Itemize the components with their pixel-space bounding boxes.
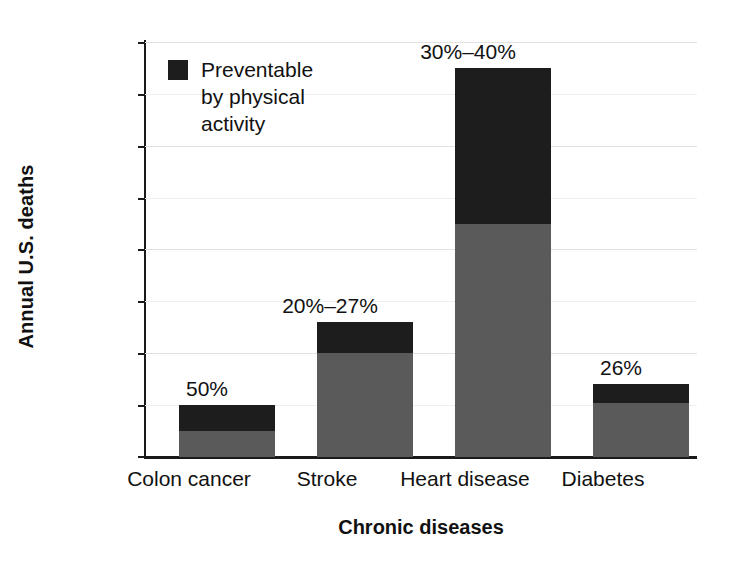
y-tick-mark-250000	[138, 198, 145, 200]
bar-segment-base-diabetes	[593, 403, 689, 457]
bar-diabetes[interactable]	[593, 384, 689, 457]
gridline-100000	[145, 353, 697, 354]
bar-segment-preventable-heart-disease	[455, 68, 551, 224]
bar-segment-base-stroke	[317, 353, 413, 457]
bar-value-label-heart-disease: 30%–40%	[385, 40, 551, 64]
y-tick-mark-100000	[138, 353, 145, 355]
bar-stroke[interactable]	[317, 322, 413, 457]
legend: Preventable by physical activity	[168, 56, 313, 137]
bar-segment-preventable-colon-cancer	[179, 405, 275, 431]
bar-heart-disease[interactable]	[455, 68, 551, 457]
bar-segment-preventable-stroke	[317, 322, 413, 353]
y-tick-mark-200000	[138, 249, 145, 251]
x-axis-category-label-stroke: Stroke	[249, 465, 405, 492]
x-axis-category-label-colon-cancer: Colon cancer	[111, 465, 267, 492]
gridline-200000	[145, 249, 697, 250]
gridline-250000	[145, 198, 697, 199]
bar-segment-base-colon-cancer	[179, 431, 275, 457]
stacked-bar-chart: Annual U.S. deaths 400,000 300,000 200,0…	[0, 0, 737, 578]
bar-value-label-colon-cancer: 50%	[139, 377, 275, 401]
legend-swatch-dark-icon	[168, 60, 188, 80]
x-axis-category-label-heart-disease: Heart disease	[387, 465, 543, 492]
y-tick-mark-300000	[138, 146, 145, 148]
y-tick-mark-150000	[138, 301, 145, 303]
y-tick-mark-50000	[138, 405, 145, 407]
y-tick-mark-0	[138, 456, 145, 458]
bar-value-label-stroke: 20%–27%	[247, 294, 413, 318]
y-tick-mark-350000	[138, 94, 145, 96]
bar-segment-base-heart-disease	[455, 224, 551, 457]
x-axis-title: Chronic diseases	[145, 516, 697, 539]
y-axis-title: Annual U.S. deaths	[15, 127, 38, 387]
legend-entry-label: Preventable by physical activity	[201, 56, 313, 137]
gridline-150000	[145, 301, 697, 302]
y-tick-mark-400000	[138, 42, 145, 44]
bar-segment-preventable-diabetes	[593, 384, 689, 403]
gridline-300000	[145, 146, 697, 147]
bar-colon-cancer[interactable]	[179, 405, 275, 457]
bar-value-label-diabetes: 26%	[553, 356, 689, 380]
x-axis-category-label-diabetes: Diabetes	[525, 465, 681, 492]
